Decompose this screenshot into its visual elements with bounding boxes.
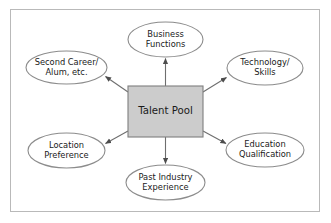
node-education-qualification[interactable]: [226, 133, 304, 167]
diagram-graphics: [0, 0, 331, 223]
node-technology-skills[interactable]: [227, 51, 303, 85]
edge-technology-skills: [203, 78, 227, 93]
diagram-canvas: Talent Pool Business Functions Second Ca…: [0, 0, 331, 223]
edge-location-preference: [106, 131, 129, 144]
node-location-preference[interactable]: [28, 133, 105, 168]
node-business-functions[interactable]: [128, 22, 203, 57]
node-past-industry-experience[interactable]: [126, 165, 205, 200]
node-talent-pool[interactable]: [128, 86, 203, 137]
edge-education-qualification: [203, 131, 226, 144]
edge-second-career-alum: [106, 77, 129, 93]
node-second-career-alum[interactable]: [26, 51, 107, 84]
